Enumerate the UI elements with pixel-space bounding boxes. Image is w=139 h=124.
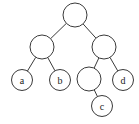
node-circle bbox=[77, 67, 101, 91]
nodes: abdc bbox=[12, 3, 134, 117]
tree-node-left bbox=[30, 35, 54, 59]
edge-root-to-left bbox=[51, 23, 67, 38]
binary-tree-diagram: abdc bbox=[0, 0, 139, 124]
edge-left-to-b bbox=[48, 58, 55, 71]
node-circle bbox=[63, 3, 87, 27]
edge-right-to-right-left bbox=[94, 58, 99, 68]
edge-left-to-a bbox=[27, 57, 35, 71]
edge-root-to-right bbox=[83, 24, 96, 38]
node-label: c bbox=[100, 101, 105, 112]
tree-node-b: b bbox=[50, 70, 71, 91]
node-circle bbox=[92, 35, 116, 59]
edge-right-left-to-c bbox=[94, 90, 97, 97]
node-label: a bbox=[20, 75, 25, 86]
node-label: b bbox=[58, 75, 63, 86]
tree-node-right-left bbox=[77, 67, 101, 91]
tree-node-a: a bbox=[12, 70, 33, 91]
tree-node-right bbox=[92, 35, 116, 59]
tree-node-d: d bbox=[113, 70, 134, 91]
edges bbox=[27, 23, 117, 96]
tree-node-root bbox=[63, 3, 87, 27]
node-circle bbox=[30, 35, 54, 59]
tree-node-c: c bbox=[92, 96, 113, 117]
edge-right-to-d bbox=[110, 57, 118, 71]
node-label: d bbox=[121, 75, 126, 86]
